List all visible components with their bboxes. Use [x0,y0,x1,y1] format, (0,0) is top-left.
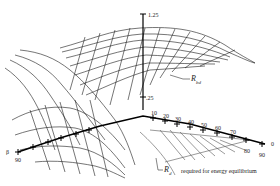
tick-label-50: 50 [201,122,207,128]
tick-label-90: 90 [259,152,265,158]
tick-label-70: 70 [230,129,236,135]
beta-axis-origin-label: 0 [271,141,274,147]
wireframe-surface [0,0,280,186]
vertical-axis-top-label: 1.25 [148,12,159,18]
tick-label-30: 30 [175,116,181,122]
beta-axis-label: β [6,149,9,155]
tick-label-60: 60 [215,125,221,131]
vertical-axis-mid-label: .25 [146,95,154,101]
tick-label-20: 20 [163,113,169,119]
beta-axis-end-label: 90 [15,157,21,163]
tick-label-10: 10 [151,110,157,116]
rd-description: required for energy equilibrium [181,168,257,174]
tick-label-40: 40 [188,119,194,125]
rd-label: Rd [164,166,171,176]
tick-label-80: 80 [244,148,250,154]
rbd-label: Rbd [191,75,201,85]
surface-plot-figure: 1.25 .25 β 90 0 10 20 30 40 50 60 70 80 … [0,0,280,186]
